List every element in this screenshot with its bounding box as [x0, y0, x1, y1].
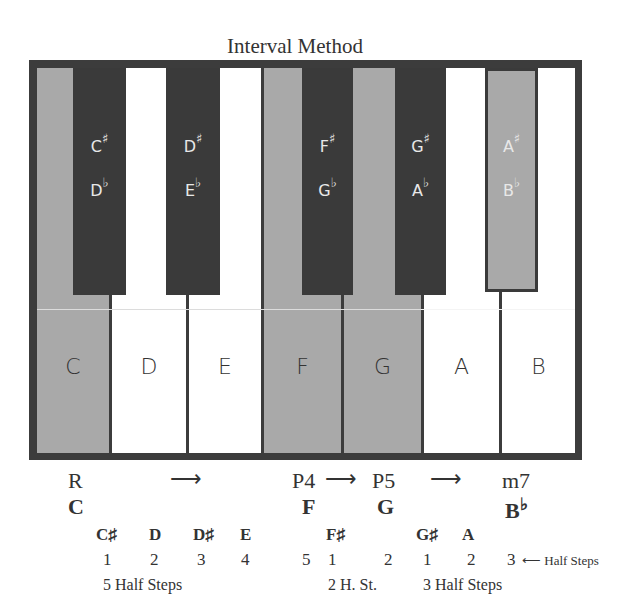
- arrow-right-icon: ⟶: [430, 466, 462, 492]
- passing-note: D♯: [193, 525, 214, 545]
- sharp-label: A♯: [488, 134, 535, 156]
- step-count: 1: [328, 550, 337, 570]
- key-label: A: [424, 354, 499, 379]
- interval-root: R: [68, 468, 83, 494]
- group-label-3-half-steps: 3 Half Steps: [423, 576, 502, 594]
- passing-note: G♯: [416, 525, 438, 545]
- interval-p4: P4: [292, 468, 315, 494]
- key-label: C: [37, 354, 109, 379]
- flat-label: A♭: [395, 178, 446, 200]
- step-count: 3: [507, 550, 516, 570]
- sharp-icon: ♯: [196, 131, 202, 146]
- flat-icon: ♭: [423, 175, 429, 190]
- key-label: D: [112, 354, 186, 379]
- flat-icon: ♭: [103, 175, 109, 190]
- sharp-icon: ♯: [102, 131, 108, 146]
- flat-label: E♭: [166, 178, 220, 200]
- group-label-2-half-steps: 2 H. St.: [328, 576, 377, 594]
- flat-label: B♭: [488, 178, 535, 200]
- arrow-right-icon: ⟶: [170, 466, 202, 492]
- step-count: 2: [384, 550, 393, 570]
- sharp-label: G♯: [395, 134, 446, 156]
- step-count: 1: [103, 550, 112, 570]
- arrow-right-icon: ⟶: [325, 466, 357, 492]
- black-key-c-sharp: C♯ D♭: [73, 68, 126, 295]
- diagram-title: Interval Method: [0, 34, 590, 59]
- chord-note-p4: F: [302, 494, 315, 520]
- flat-label: D♭: [73, 178, 126, 200]
- step-count: 3: [197, 550, 206, 570]
- step-count: 2: [150, 550, 159, 570]
- key-divider-line: [421, 309, 575, 310]
- sharp-icon: ♯: [514, 131, 520, 146]
- sharp-label: F♯: [302, 134, 353, 156]
- passing-note: F♯: [326, 525, 345, 545]
- chord-note-p5: G: [377, 494, 394, 520]
- chord-note-m7: B♭: [505, 494, 528, 524]
- step-count: 2: [467, 550, 476, 570]
- sharp-icon: ♯: [424, 131, 430, 146]
- passing-note: A: [462, 525, 474, 545]
- step-count: 4: [241, 550, 250, 570]
- passing-note: C♯: [96, 525, 117, 545]
- passing-note: D: [149, 525, 161, 545]
- chord-note-root: C: [68, 494, 84, 520]
- step-count: 5: [302, 550, 311, 570]
- group-label-5-half-steps: 5 Half Steps: [103, 576, 182, 594]
- interval-m7: m7: [502, 468, 530, 494]
- sharp-label: C♯: [73, 134, 126, 156]
- flat-icon: ♭: [331, 175, 337, 190]
- half-steps-note: ⟵ Half Steps: [522, 553, 599, 569]
- black-key-f-sharp: F♯ G♭: [302, 68, 353, 295]
- passing-note: E: [240, 525, 251, 545]
- flat-label: G♭: [302, 178, 353, 200]
- key-label: F: [264, 354, 341, 379]
- flat-icon: ♭: [514, 175, 520, 190]
- black-key-g-sharp: G♯ A♭: [395, 68, 446, 295]
- flat-icon: ♭: [195, 175, 201, 190]
- key-label: G: [344, 354, 421, 379]
- sharp-icon: ♯: [329, 131, 335, 146]
- arrow-left-icon: ⟵: [522, 553, 541, 568]
- key-divider-line: [37, 309, 421, 310]
- interval-p5: P5: [372, 468, 395, 494]
- key-label: E: [189, 354, 261, 379]
- step-count: 1: [423, 550, 432, 570]
- black-key-a-sharp: A♯ B♭: [485, 68, 538, 292]
- key-label: B: [502, 354, 575, 379]
- sharp-label: D♯: [166, 134, 220, 156]
- flat-icon: ♭: [520, 495, 528, 514]
- black-key-d-sharp: D♯ E♭: [166, 68, 220, 295]
